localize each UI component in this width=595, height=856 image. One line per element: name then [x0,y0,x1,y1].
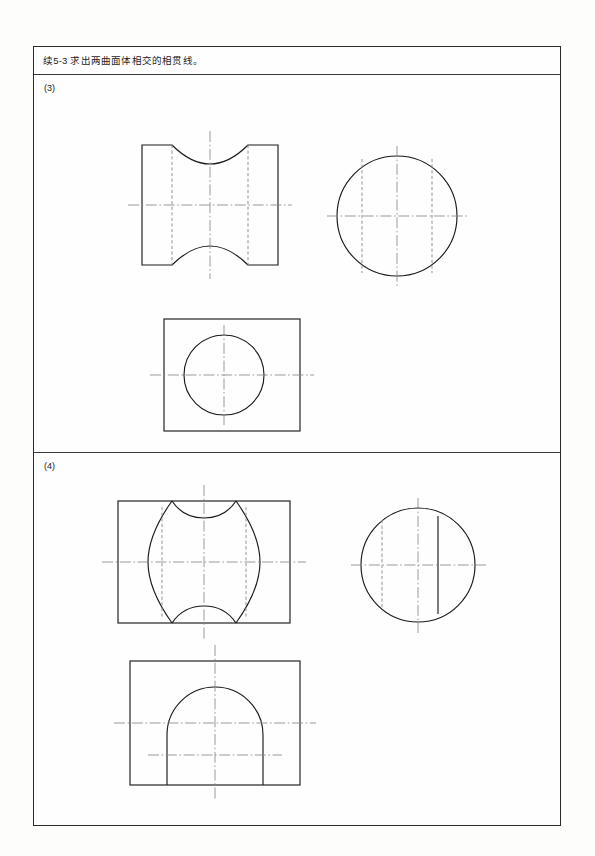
section-label-3: (3) [44,83,55,93]
page-title: 续5-3 求出两曲面体相交的相贯线。 [43,53,203,67]
title-bar: 续5-3 求出两曲面体相交的相贯线。 [34,47,560,75]
figure-3-front-view [138,141,288,273]
figure-4-front-view [110,493,300,631]
figure-3-top-view [156,313,308,439]
section-exercise-3: (3) [34,75,560,453]
exercise-frame: 续5-3 求出两曲面体相交的相贯线。 (3) [33,46,561,826]
figure-4-side-view [350,497,486,633]
figure-4-top-view [120,653,310,793]
section-exercise-4: (4) [34,453,560,827]
section-label-4: (4) [44,461,55,471]
worksheet-page: 续5-3 求出两曲面体相交的相贯线。 (3) [0,0,595,856]
figure-3-side-view [326,145,466,285]
